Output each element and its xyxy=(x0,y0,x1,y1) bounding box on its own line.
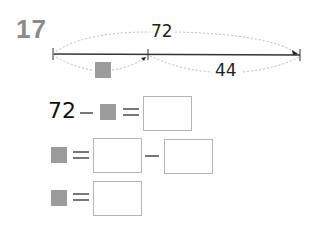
answer-box[interactable] xyxy=(164,139,213,174)
answer-box[interactable] xyxy=(93,181,142,216)
total-label: 72 xyxy=(151,21,173,41)
unknown-square-icon xyxy=(95,62,111,78)
unknown-square-icon xyxy=(100,104,116,120)
answer-box[interactable] xyxy=(93,138,142,173)
answer-box[interactable] xyxy=(143,96,192,131)
minus-sign xyxy=(145,155,159,157)
minus-sign xyxy=(80,112,93,114)
equals-sign xyxy=(73,151,89,159)
unknown-square-icon xyxy=(51,190,67,206)
tape-diagram xyxy=(0,0,318,90)
part-label: 44 xyxy=(215,60,237,80)
equals-sign xyxy=(123,108,139,116)
equation-1-minuend: 72 xyxy=(48,98,76,123)
unknown-square-icon xyxy=(51,147,67,163)
equals-sign xyxy=(73,193,89,201)
